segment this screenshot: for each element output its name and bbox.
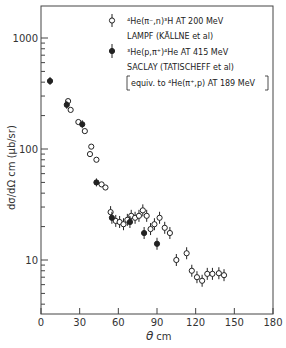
y-tick-label: 100 — [19, 144, 38, 155]
data-point — [103, 185, 108, 190]
x-axis-title: θcm — [146, 329, 172, 343]
series-lampf-open-circles — [65, 99, 226, 287]
data-point — [94, 157, 99, 162]
data-point — [87, 151, 92, 156]
legend-bracket-right — [265, 76, 268, 90]
y-axis-ticks — [41, 38, 48, 304]
data-point — [89, 144, 94, 149]
x-tick-label: 60 — [112, 317, 125, 328]
x-axis-ticks — [41, 308, 273, 314]
data-point — [68, 107, 73, 112]
x-tick-label: 120 — [186, 317, 205, 328]
legend-label-saclay-source: SACLAY (TATISCHEFF et al) — [127, 63, 234, 72]
x-axis-tick-labels: 0306090120150180 — [38, 317, 283, 328]
y-axis-title: dσ/dΩ cm (μb/sr) — [6, 125, 17, 210]
y-tick-label: 10 — [25, 255, 38, 266]
legend-label-lampf-reaction: ⁴He(π⁻,n)³H AT 200 MeV — [127, 17, 224, 26]
data-point — [174, 254, 179, 266]
data-point — [205, 268, 210, 280]
data-point — [167, 227, 172, 239]
data-point — [154, 238, 159, 250]
data-point — [184, 247, 189, 259]
legend: ⁴He(π⁻,n)³H AT 200 MeV LAMPF (KÄLLNE et … — [109, 14, 268, 90]
legend-filled-marker — [109, 44, 114, 58]
data-point — [162, 222, 167, 234]
legend-open-marker — [109, 14, 114, 27]
legend-bracket-left — [127, 76, 130, 90]
legend-label-saclay-reaction: ³He(p,π⁺)⁴He AT 415 MeV — [127, 48, 229, 57]
y-tick-label: 1000 — [13, 33, 38, 44]
data-point — [94, 178, 99, 186]
legend-label-lampf-source: LAMPF (KÄLLNE et al) — [127, 31, 213, 41]
cross-section-chart: 101001000 0306090120150180 dσ/dΩ cm (μb/… — [0, 0, 286, 348]
data-point — [200, 275, 205, 287]
x-tick-label: 180 — [263, 317, 282, 328]
x-tick-label: 90 — [151, 317, 164, 328]
series-saclay-filled-circles — [47, 77, 159, 250]
x-tick-label: 0 — [38, 317, 44, 328]
data-point — [82, 128, 87, 133]
data-point — [142, 227, 147, 239]
legend-label-equivalent: equiv. to ⁴He(π⁺,p) AT 189 MeV — [131, 79, 256, 88]
data-point — [216, 267, 221, 279]
data-point — [47, 77, 52, 85]
data-point — [189, 265, 194, 277]
data-point — [194, 271, 199, 283]
x-tick-label: 150 — [225, 317, 244, 328]
data-point — [221, 269, 226, 281]
data-point — [157, 212, 162, 224]
data-point — [210, 268, 215, 280]
x-tick-label: 30 — [73, 317, 86, 328]
